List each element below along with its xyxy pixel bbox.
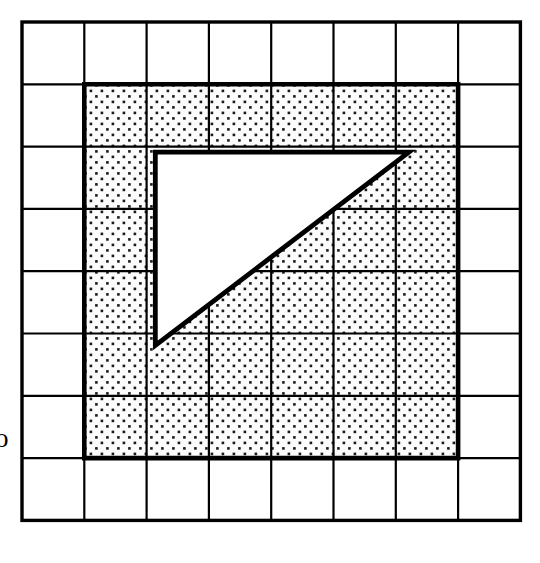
geometry-figure: o bbox=[0, 0, 540, 563]
figure-canvas: o bbox=[0, 0, 540, 563]
edge-label: o bbox=[0, 423, 9, 453]
edge-label-text: o bbox=[0, 423, 9, 453]
